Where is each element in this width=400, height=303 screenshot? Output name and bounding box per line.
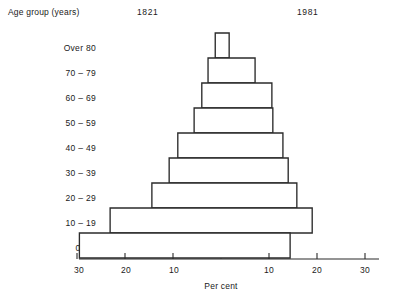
tick-label-left-30: 30 [74,265,84,275]
series-label-1981: 1981 [297,7,318,17]
age-label-50-59: 50 – 59 [66,118,96,128]
tick-label-left-20: 20 [121,265,131,275]
bar-10-19 [110,208,312,233]
bar-60-69 [202,83,272,108]
age-axis-title: Age group (years) [8,7,79,17]
population-pyramid-chart: Age group (years) 1821 1981 Over 80 70 –… [0,0,400,303]
bars-group [79,33,312,258]
bar-30-39 [169,158,288,183]
pyramid-plot-area: Age group (years) 1821 1981 Over 80 70 –… [0,0,400,303]
tick-label-left-10: 10 [169,265,179,275]
age-label-60-69: 60 – 69 [66,93,96,103]
bar-0-9 [79,233,290,258]
age-label-70-79: 70 – 79 [66,68,96,78]
bar-70-79 [208,58,255,83]
age-label-30-39: 30 – 39 [66,168,96,178]
age-label-40-49: 40 – 49 [66,143,96,153]
tick-label-right-20: 20 [312,265,322,275]
age-label-10-19: 10 – 19 [66,218,96,228]
tick-label-right-10: 10 [264,265,274,275]
bar-40-49 [178,133,283,158]
age-label-20-29: 20 – 29 [66,193,96,203]
bar-20-29 [152,183,297,208]
x-axis-title: Per cent [204,281,238,291]
age-label-over-80: Over 80 [64,43,96,53]
bar-50-59 [194,108,273,133]
tick-label-right-30: 30 [360,265,370,275]
bar-over-80 [215,33,229,58]
series-label-1821: 1821 [137,7,158,17]
